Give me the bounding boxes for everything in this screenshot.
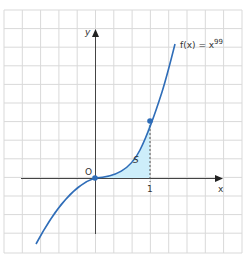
y-axis [92,29,99,234]
point-1-f1 [147,118,153,124]
y-axis-arrow-icon [92,29,99,37]
curve-f [36,44,175,244]
x-axis-arrow-icon [215,175,223,182]
y-axis-label: y [84,27,91,37]
tick-label-1: 1 [147,184,153,194]
origin-label: O [85,167,92,177]
function-label: f(x) = x99 [180,38,223,50]
origin-point [92,175,98,181]
area-label: S [133,155,139,165]
x-axis-label: x [218,184,224,194]
function-graph: f(x) = x99 y x O 1 S [0,0,244,257]
